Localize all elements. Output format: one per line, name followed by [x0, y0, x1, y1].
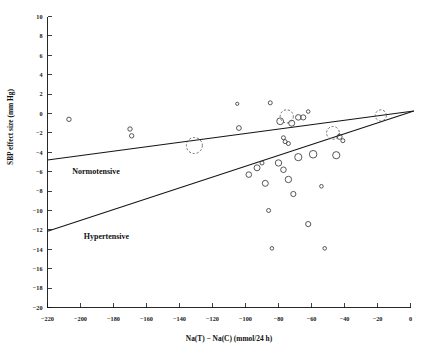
x-tick-label: −220 — [41, 315, 54, 322]
y-tick-label: −10 — [33, 207, 43, 214]
y-tick-label: −20 — [33, 304, 43, 311]
x-tick-label: −60 — [307, 315, 317, 322]
line-label-normotensive: Normotensive — [72, 167, 120, 176]
y-tick-label: −12 — [33, 226, 43, 233]
y-tick-label: 10 — [36, 13, 42, 20]
y-tick-label: −18 — [33, 284, 43, 291]
chart-canvas: −220−200−180−160−140−120−100−80−60−40−20… — [0, 0, 426, 349]
y-tick-label: 6 — [39, 52, 42, 59]
x-tick-label: −80 — [274, 315, 284, 322]
y-axis-title: SBP effect size (mm Hg) — [6, 88, 15, 164]
line-label-hypertensive: Hypertensive — [84, 232, 130, 241]
x-tick-label: −40 — [340, 315, 350, 322]
y-tick-label: −6 — [36, 168, 43, 175]
x-tick-label: −200 — [74, 315, 87, 322]
y-tick-label: 8 — [39, 32, 42, 39]
y-tick-label: 0 — [39, 110, 42, 117]
plot-background — [0, 0, 426, 349]
x-tick-label: −180 — [107, 315, 120, 322]
scatter-plot-figure: −220−200−180−160−140−120−100−80−60−40−20… — [0, 0, 426, 349]
x-tick-label: −20 — [373, 315, 383, 322]
x-tick-label: −120 — [206, 315, 219, 322]
y-tick-label: 4 — [39, 71, 42, 78]
x-tick-label: −100 — [239, 315, 252, 322]
y-tick-label: −2 — [36, 129, 43, 136]
y-tick-label: −16 — [33, 265, 43, 272]
y-tick-label: 2 — [39, 90, 42, 97]
y-tick-label: −8 — [36, 187, 43, 194]
y-tick-label: −14 — [33, 246, 43, 253]
x-axis-title: Na(T) − Na(C) (mmol/24 h) — [186, 334, 273, 343]
x-tick-label: −140 — [173, 315, 186, 322]
y-tick-label: −4 — [36, 149, 43, 156]
x-tick-label: 0 — [409, 315, 412, 322]
x-tick-label: −160 — [140, 315, 153, 322]
